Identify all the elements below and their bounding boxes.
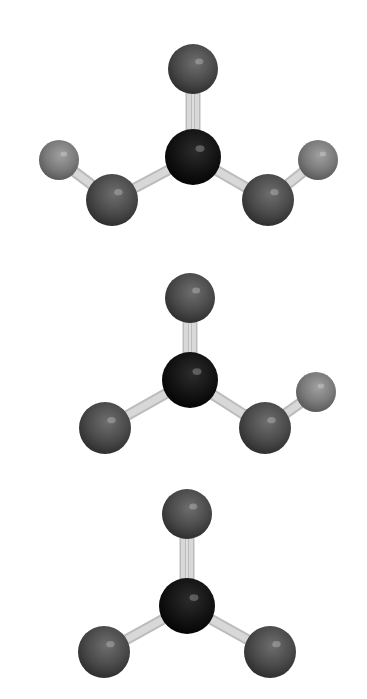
atom-highlight [320, 152, 326, 157]
atom-highlight [107, 417, 115, 423]
oxygen-atom [86, 174, 138, 226]
hydrogen-atom [298, 140, 338, 180]
carbon-atom [165, 129, 221, 185]
oxygen-atom [165, 273, 215, 323]
oxygen-atom [78, 626, 130, 678]
atom-highlight [114, 189, 122, 195]
atom-highlight [267, 417, 275, 423]
bicarbonate-molecule [79, 273, 336, 454]
atom-highlight [270, 189, 278, 195]
oxygen-atom [244, 626, 296, 678]
oxygen-atom [168, 44, 218, 94]
oxygen-atom [79, 402, 131, 454]
oxygen-atom [162, 489, 212, 539]
hydrogen-atom [39, 140, 79, 180]
atom-highlight [61, 152, 67, 157]
atom-highlight [190, 594, 199, 601]
atom-highlight [272, 641, 280, 647]
atom-highlight [106, 641, 114, 647]
molecule-diagram [0, 0, 367, 699]
oxygen-atom [242, 174, 294, 226]
oxygen-atom [239, 402, 291, 454]
atom-highlight [318, 384, 324, 389]
atom-highlight [189, 504, 197, 510]
carbon-atom [159, 578, 215, 634]
atom-highlight [195, 59, 203, 65]
atom-highlight [193, 368, 202, 375]
carbon-atom [162, 352, 218, 408]
carbonic-acid-molecule [39, 44, 338, 226]
atom-highlight [196, 145, 205, 152]
carbonate-molecule [78, 489, 296, 678]
atom-highlight [192, 288, 200, 294]
hydrogen-atom [296, 372, 336, 412]
